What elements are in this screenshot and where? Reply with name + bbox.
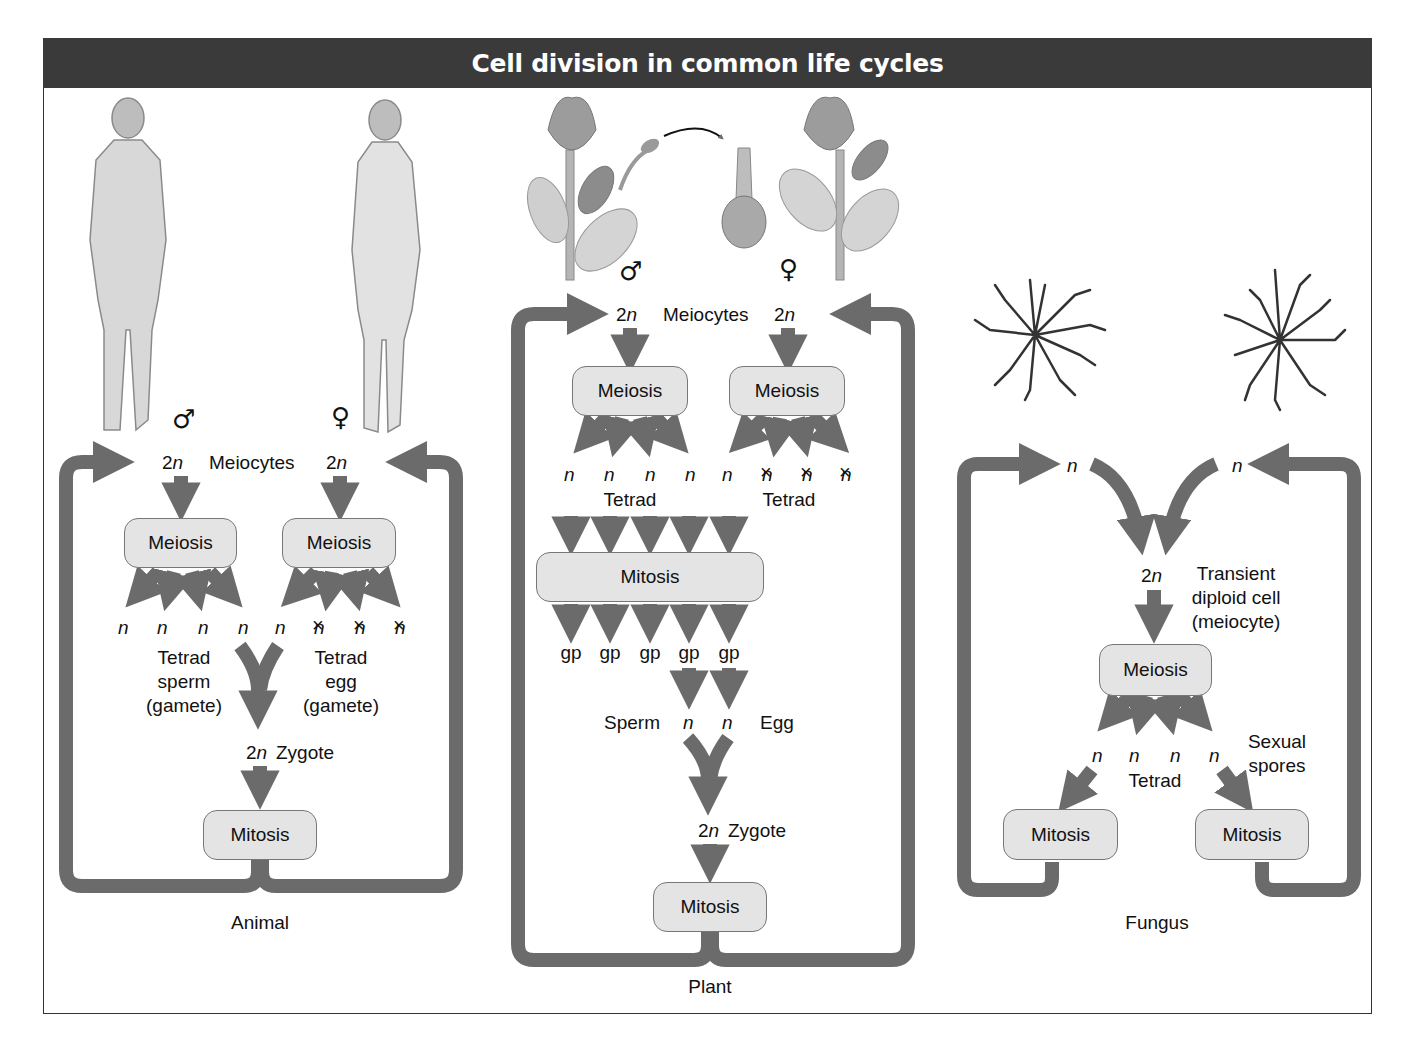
male-symbol-icon: ♂ [172, 406, 195, 432]
plant-meiocyte-right-ploidy: 2n [774, 305, 795, 324]
plant-gametophyte-label: gp [639, 643, 660, 662]
plant-mitosis-box: Mitosis [653, 882, 767, 932]
pollination-arrow-icon [664, 128, 722, 138]
animal-meiocyte-right-ploidy: 2n [326, 453, 347, 472]
animal-mitosis-box: Mitosis [203, 810, 317, 860]
plant-zygote-ploidy: 2n [698, 821, 719, 840]
female-flower-illustration [768, 97, 910, 280]
label-line: Tetrad [303, 646, 379, 670]
plant-sperm-ploidy: n [683, 713, 694, 732]
animal-tetrad-sperm-label: Tetrad sperm (gamete) [146, 646, 222, 718]
label-line: Transient [1192, 562, 1281, 586]
fungus-product-n: n [1129, 746, 1140, 765]
plant-tetrad-right-label: Tetrad [763, 490, 816, 509]
plant-product-n: n [685, 465, 696, 484]
animal-tetrad-egg-label: Tetrad egg (gamete) [303, 646, 379, 718]
male-symbol-icon: ♂ [619, 258, 642, 284]
label-line: diploid cell [1192, 586, 1281, 610]
plant-gametophyte-label: gp [678, 643, 699, 662]
animal-aborted-product-icon: n [355, 618, 366, 637]
plant-product-n: n [722, 465, 733, 484]
plant-gametophyte-label: gp [560, 643, 581, 662]
male-flower-illustration [519, 97, 648, 282]
label-line: Tetrad [146, 646, 222, 670]
plant-tetrad-left-label: Tetrad [604, 490, 657, 509]
plant-meiocytes-label: Meiocytes [663, 305, 749, 324]
plant-product-n: n [564, 465, 575, 484]
fungus-tetrad-label: Tetrad [1129, 771, 1182, 790]
plant-egg-label: Egg [760, 713, 794, 732]
label-line: sperm [146, 670, 222, 694]
fungus-meiosis-box: Meiosis [1099, 644, 1212, 696]
animal-product-n: n [118, 618, 129, 637]
animal-meiocyte-left-ploidy: 2n [162, 453, 183, 472]
animal-meiosis-left-box: Meiosis [124, 518, 237, 568]
plant-zygote-label: Zygote [728, 821, 786, 840]
plant-aborted-product-icon: n [802, 465, 813, 484]
plant-sperm-label: Sperm [604, 713, 660, 732]
fungus-mitosis-right-box: Mitosis [1195, 809, 1309, 860]
plant-product-n: n [604, 465, 615, 484]
fungus-right-ploidy: n [1232, 456, 1243, 475]
animal-product-n: n [238, 618, 249, 637]
animal-product-n: n [157, 618, 168, 637]
plant-mitosis-wide-box: Mitosis [536, 552, 764, 602]
animal-caption: Animal [231, 913, 289, 932]
fungus-caption: Fungus [1125, 913, 1188, 932]
plant-aborted-product-icon: n [762, 465, 773, 484]
animal-product-n: n [275, 618, 286, 637]
male-human-illustration [90, 98, 166, 430]
animal-zygote-label: Zygote [276, 743, 334, 762]
fungus-diploid-ploidy: 2n [1141, 566, 1162, 585]
plant-gametophyte-label: gp [599, 643, 620, 662]
label-line: egg [303, 670, 379, 694]
animal-meiosis-right-box: Meiosis [282, 518, 396, 568]
fungus-product-n: n [1209, 746, 1220, 765]
female-symbol-icon: ♀ [331, 404, 350, 430]
plant-egg-ploidy: n [722, 713, 733, 732]
animal-meiocytes-label: Meiocytes [209, 453, 295, 472]
pistil-illustration [722, 148, 766, 248]
animal-zygote-ploidy: 2n [246, 743, 267, 762]
animal-aborted-product-icon: n [395, 618, 406, 637]
female-human-illustration [352, 100, 420, 432]
plant-product-n: n [645, 465, 656, 484]
fungus-mitosis-left-box: Mitosis [1003, 809, 1118, 860]
fungus-diploid-description: Transient diploid cell (meiocyte) [1192, 562, 1281, 634]
plant-meiosis-left-box: Meiosis [572, 366, 688, 416]
fungus-sexual-spores-label: Sexual spores [1248, 730, 1306, 778]
label-line: (gamete) [146, 694, 222, 718]
fungus-product-n: n [1170, 746, 1181, 765]
label-line: (meiocyte) [1192, 610, 1281, 634]
plant-aborted-product-icon: n [841, 465, 852, 484]
fungus-mycelium-right-illustration [1225, 270, 1345, 410]
animal-product-n: n [198, 618, 209, 637]
label-line: spores [1248, 754, 1306, 778]
stamen-illustration [620, 136, 662, 190]
label-line: (gamete) [303, 694, 379, 718]
fungus-mycelium-left-illustration [975, 280, 1105, 400]
plant-meiocyte-left-ploidy: 2n [616, 305, 637, 324]
plant-caption: Plant [688, 977, 731, 996]
female-symbol-icon: ♀ [779, 256, 798, 282]
plant-meiosis-right-box: Meiosis [729, 366, 845, 416]
plant-gametophyte-label: gp [718, 643, 739, 662]
fungus-left-ploidy: n [1067, 456, 1078, 475]
animal-aborted-product-icon: n [314, 618, 325, 637]
fungus-product-n: n [1092, 746, 1103, 765]
label-line: Sexual [1248, 730, 1306, 754]
